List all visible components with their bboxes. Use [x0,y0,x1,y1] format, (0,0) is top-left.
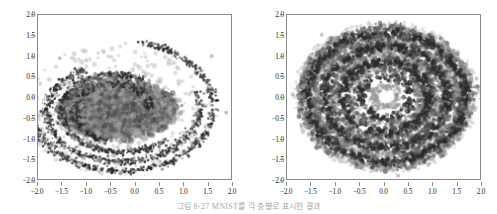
left-xtick-mark [37,182,38,186]
right-xtick-mark [384,182,385,186]
left-ytick-mark [31,180,35,181]
right-xtick-mark [359,182,360,186]
right-xtick-mark [286,182,287,186]
right-ytick-label: 1.5 [250,30,284,39]
right-ytick-label: 0.0 [250,93,284,102]
left-xtick-label: 2.0 [212,187,252,196]
left-ytick-label: 1.0 [1,51,35,60]
right-xtick-mark [432,182,433,186]
left-ytick-label: 1.5 [1,30,35,39]
right-ytick-label: −0.5 [250,113,284,122]
left-x-axis-ticks: −2.0−1.5−1.0−0.50.00.51.01.52.0 [37,182,232,194]
left-xtick-mark [159,182,160,186]
left-plot-frame [37,14,232,180]
right-xtick-label: 2.0 [461,187,497,196]
right-ytick-mark [280,139,284,140]
right-ytick-label: 1.0 [250,51,284,60]
left-xtick-mark [61,182,62,186]
right-ytick-label: −2.0 [250,176,284,185]
right-scatter-canvas [287,15,480,179]
left-ytick-label: −1.5 [1,155,35,164]
right-xtick-mark [310,182,311,186]
right-ytick-mark [280,14,284,15]
left-xtick-mark [86,182,87,186]
right-ytick-mark [280,56,284,57]
left-xtick-mark [110,182,111,186]
left-ytick-label: 0.5 [1,72,35,81]
left-xtick-mark [208,182,209,186]
left-ytick-mark [31,76,35,77]
right-ytick-mark [280,35,284,36]
right-plot-frame [286,14,481,180]
right-xtick-mark [408,182,409,186]
right-scatter-panel: 2.01.51.00.50.0−0.5−1.0−1.5−2.0 −2.0−1.5… [249,0,497,198]
left-ytick-label: −1.0 [1,134,35,143]
left-ytick-label: −0.5 [1,113,35,122]
right-ytick-label: 2.0 [250,10,284,19]
right-ytick-mark [280,97,284,98]
figure-container: 2.01.51.00.50.0−0.5−1.0−1.5−2.0 −2.0−1.5… [0,0,497,214]
left-y-axis-ticks: 2.01.51.00.50.0−0.5−1.0−1.5−2.0 [0,14,35,180]
right-ytick-label: −1.0 [250,134,284,143]
left-ytick-label: 0.0 [1,93,35,102]
left-ytick-mark [31,97,35,98]
left-xtick-mark [135,182,136,186]
left-xtick-mark [232,182,233,186]
right-ytick-mark [280,76,284,77]
left-scatter-canvas [38,15,231,179]
left-scatter-panel: 2.01.51.00.50.0−0.5−1.0−1.5−2.0 −2.0−1.5… [0,0,248,198]
left-ytick-mark [31,118,35,119]
figure-caption: 그림 8-27 MNIST를 각 층별로 표시한 결과 [0,199,497,214]
left-ytick-mark [31,35,35,36]
right-ytick-mark [280,180,284,181]
right-ytick-label: −1.5 [250,155,284,164]
left-ytick-label: −2.0 [1,176,35,185]
right-ytick-label: 0.5 [250,72,284,81]
right-xtick-mark [481,182,482,186]
left-ytick-mark [31,56,35,57]
right-xtick-mark [335,182,336,186]
right-y-axis-ticks: 2.01.51.00.50.0−0.5−1.0−1.5−2.0 [249,14,284,180]
right-ytick-mark [280,118,284,119]
left-ytick-mark [31,159,35,160]
right-ytick-mark [280,159,284,160]
left-ytick-mark [31,14,35,15]
right-x-axis-ticks: −2.0−1.5−1.0−0.50.00.51.01.52.0 [286,182,481,194]
right-xtick-mark [457,182,458,186]
left-ytick-label: 2.0 [1,10,35,19]
left-xtick-mark [183,182,184,186]
left-ytick-mark [31,139,35,140]
